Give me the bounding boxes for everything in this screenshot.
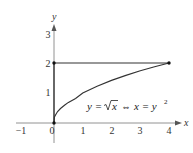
equation-rhs: x = y [133,100,157,112]
x-tick-labels: −1 0 1 2 3 4 [16,125,172,136]
marked-points [52,61,170,124]
x-axis-arrow-icon [175,121,182,126]
equation-exponent: 2 [164,98,168,106]
y-sqrt-x-curve [54,63,169,123]
y-tick-label: 1 [46,87,51,98]
x-tick-label: 1 [81,125,86,136]
x-tick-label: −1 [16,125,27,136]
equation-lhs: y = [86,100,102,112]
point-0-2 [52,61,55,64]
y-tick-label: 2 [46,58,51,69]
x-tick-label: 2 [110,125,115,136]
y-tick-label: 3 [46,29,51,40]
equation-annotation: y = x ⇔ x = y 2 [86,98,168,112]
x-tick-label: 4 [167,125,172,136]
x-axis-label: x [183,117,189,128]
sqrt-curve [54,93,83,123]
equation-sqrt-arg: x [111,100,117,112]
origin-point [52,121,55,124]
axes [16,24,182,143]
equivalence-arrow-icon: ⇔ [121,101,131,112]
y-tick-labels: 1 2 3 [46,29,51,98]
x-tick-label: 3 [138,125,143,136]
y-axis-label: y [51,11,57,22]
x-tick-label: 0 [50,125,55,136]
point-4-2 [167,61,170,64]
sqrt-region-plot: x y −1 0 1 2 3 4 1 2 3 y = x ⇔ x = y 2 [0,0,193,153]
y-axis-arrow-icon [52,24,57,31]
